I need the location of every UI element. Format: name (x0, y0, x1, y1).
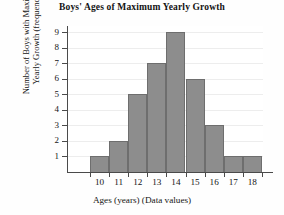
x-axis-tick-label: 11 (109, 178, 129, 187)
y-axis-tick-label: 7 (45, 59, 59, 68)
x-axis-tick-label: 18 (242, 178, 262, 187)
bar (90, 156, 109, 172)
y-axis-tick (62, 156, 68, 157)
x-axis-title: Ages (years) (Data values) (0, 195, 284, 205)
x-axis-tick (109, 172, 110, 177)
gridline (67, 32, 263, 33)
y-axis-tick (62, 94, 68, 95)
y-axis-tick-label: 8 (45, 43, 59, 52)
bar (224, 156, 243, 172)
y-axis-tick-label: 4 (45, 105, 59, 114)
x-axis-tick-label: 10 (90, 178, 110, 187)
y-axis-tick-label: 2 (45, 136, 59, 145)
y-axis-tick (62, 48, 68, 49)
y-axis-tick (62, 110, 68, 111)
bar (166, 32, 185, 172)
y-axis-tick-label: 1 (45, 152, 59, 161)
y-axis-tick-label: 9 (45, 28, 59, 37)
x-axis-tick-label: 12 (128, 178, 148, 187)
y-axis-tick (62, 125, 68, 126)
x-axis-tick (147, 172, 148, 177)
bar (186, 79, 205, 172)
x-axis-tick (224, 172, 225, 177)
y-axis-tick (62, 63, 68, 64)
x-axis-tick (186, 172, 187, 177)
x-axis-tick (90, 172, 91, 177)
x-axis-tick-label: 15 (185, 178, 205, 187)
y-axis-tick (62, 32, 68, 33)
bar (147, 63, 166, 172)
y-axis-tick-label: 6 (45, 74, 59, 83)
x-axis-tick (166, 172, 167, 177)
y-axis-tick (62, 141, 68, 142)
y-axis-title-line-2: Yearly Growth (frequency) (32, 0, 42, 85)
y-axis-tick-label: 5 (45, 90, 59, 99)
x-axis-tick-label: 14 (166, 178, 186, 187)
plot-area (67, 26, 263, 172)
histogram-figure: Boys' Ages of Maximum Yearly Growth Numb… (0, 0, 284, 215)
x-axis-tick (243, 172, 244, 177)
x-axis-tick (205, 172, 206, 177)
x-axis-tick-label: 13 (147, 178, 167, 187)
gridline (67, 48, 263, 49)
bar (243, 156, 262, 172)
bar (128, 94, 147, 172)
bar (205, 125, 224, 172)
y-axis-tick (62, 79, 68, 80)
x-axis-tick (128, 172, 129, 177)
x-axis-tick-label: 17 (223, 178, 243, 187)
x-axis-tick-label: 16 (204, 178, 224, 187)
y-axis-tick-label: 3 (45, 121, 59, 130)
x-axis-tick (262, 172, 263, 177)
bar (109, 141, 128, 172)
